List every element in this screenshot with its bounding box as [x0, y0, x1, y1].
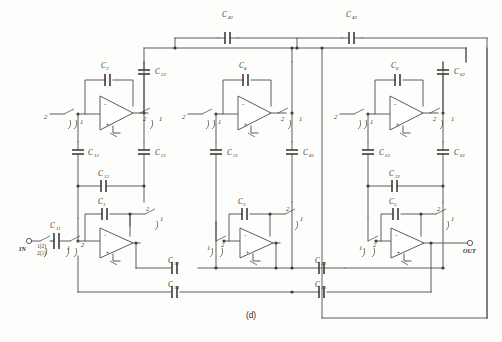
opamp-inverting-sign: − — [394, 101, 397, 107]
label-C62: C 62 — [454, 68, 465, 77]
phase-label-1: 1 — [451, 115, 454, 122]
phase-label-2: 2 — [334, 113, 338, 120]
svg-text:3: 3 — [243, 202, 246, 207]
label-C52: C 52 — [379, 149, 390, 158]
label-C4: C 4 — [239, 62, 247, 71]
opamp-inverting-sign: − — [244, 232, 247, 238]
svg-text:C: C — [303, 149, 308, 157]
capacitor-C1 — [102, 208, 107, 220]
svg-text:C: C — [88, 149, 93, 157]
phase-label-1: 1 — [300, 215, 303, 222]
label-C11: C 11 — [50, 222, 61, 231]
capacitor-C62 — [437, 48, 466, 113]
capacitor-C32-upper-right — [366, 180, 444, 218]
label-C43: C 43 — [346, 11, 357, 20]
phase-label-2: 2 — [146, 205, 150, 212]
phase-label-2: 2 — [143, 115, 147, 122]
opamp-inverting-sign: − — [104, 232, 107, 238]
svg-text:11: 11 — [56, 226, 61, 231]
circuit-schematic: C 42 C 43 C 2 C 4 C 6 C 1 C 3 C 5 — [0, 0, 502, 342]
label-C32-upper-right: C 32 — [389, 170, 400, 179]
svg-text:1: 1 — [103, 202, 105, 207]
label-C22: C 22 — [155, 68, 166, 77]
capacitor-C43 — [342, 32, 362, 44]
svg-text:C: C — [222, 11, 227, 19]
svg-text:34: 34 — [174, 285, 179, 290]
phase-label-1: 1 — [67, 244, 70, 251]
svg-text:13: 13 — [104, 174, 109, 179]
svg-text:C: C — [315, 257, 320, 265]
svg-text:41: 41 — [309, 153, 314, 158]
capacitor-C52 — [362, 142, 374, 186]
svg-text:C: C — [50, 222, 55, 230]
phase-label-2: 2 — [281, 115, 285, 122]
label-C21: C 21 — [155, 149, 166, 158]
label-C32-bottom: C 32 — [168, 257, 179, 266]
label-C34-bottom: C 34 — [168, 281, 179, 290]
opamp-inverting-sign: − — [395, 232, 398, 238]
phase-label-1: 1 — [370, 118, 373, 125]
svg-text:61: 61 — [460, 153, 465, 158]
capacitor-C41 — [286, 142, 298, 202]
capacitor-C61 — [437, 142, 449, 186]
opamp-noninverting-sign: + — [106, 249, 109, 255]
figure-caption: (d) — [246, 310, 256, 320]
stage-2-top — [50, 62, 153, 142]
svg-text:31: 31 — [233, 153, 238, 158]
phase-label-1: 1 — [299, 115, 302, 122]
phase-label-2: 2 — [182, 113, 186, 120]
svg-text:C: C — [389, 170, 394, 178]
svg-text:C: C — [227, 149, 232, 157]
svg-text:2: 2 — [106, 66, 109, 71]
phase-label-2: 2 — [433, 115, 437, 122]
svg-text:33: 33 — [321, 261, 326, 266]
svg-text:42: 42 — [228, 15, 233, 20]
label-C3: C 3 — [238, 198, 246, 207]
phase-label-1: 1 — [159, 115, 162, 122]
label-C61: C 61 — [454, 149, 465, 158]
capacitor-C31 — [210, 142, 222, 222]
svg-text:21: 21 — [161, 153, 166, 158]
svg-text:4: 4 — [244, 66, 247, 71]
opamp-noninverting-sign: + — [246, 249, 249, 255]
phase-label-2: 2 — [44, 113, 48, 120]
label-C13-upper: C 13 — [98, 170, 109, 179]
phase-label-1: 1 — [80, 118, 83, 125]
label-C1: C 1 — [98, 198, 105, 207]
capacitor-C13-upper — [76, 180, 145, 218]
phase-label-1: 1 — [451, 215, 454, 222]
svg-text:5: 5 — [394, 202, 397, 207]
stage-4-top — [188, 46, 294, 142]
label-C12: C 12 — [88, 149, 99, 158]
opamp-noninverting-sign: + — [396, 121, 399, 127]
label-C2: C 2 — [101, 62, 109, 71]
svg-text:22: 22 — [161, 72, 166, 77]
stage-1-bottom — [26, 209, 171, 292]
svg-text:C: C — [315, 281, 320, 289]
phase-label-1: 1 — [160, 215, 163, 222]
figure-canvas: C 42 C 43 C 2 C 4 C 6 C 1 C 3 C 5 — [0, 0, 502, 342]
label-C13-bottom: C 13 — [315, 281, 326, 290]
input-switch-label-bottom: 2(1) — [37, 250, 46, 257]
terminal-label-in: IN — [18, 245, 26, 252]
label-C41: C 41 — [303, 149, 314, 158]
capacitor-C2 — [105, 74, 110, 86]
phase-label-1: 1 — [218, 118, 221, 125]
svg-text:12: 12 — [94, 153, 99, 158]
label-C31: C 31 — [227, 149, 238, 158]
capacitor-C42 — [218, 32, 238, 44]
svg-text:32: 32 — [174, 261, 179, 266]
label-C5: C 5 — [389, 198, 397, 207]
capacitor-C12 — [72, 142, 84, 186]
phase-label-2: 2 — [81, 241, 85, 248]
stage-6-top — [340, 62, 445, 142]
opamp-noninverting-sign: + — [397, 249, 400, 255]
label-C6: C 6 — [391, 62, 399, 71]
svg-text:C: C — [346, 11, 351, 19]
svg-text:52: 52 — [385, 153, 390, 158]
capacitor-C21 — [138, 142, 150, 186]
terminal-label-out: OUT — [463, 247, 476, 254]
label-C33-bottom: C 33 — [315, 257, 326, 266]
stage-3-bottom — [198, 202, 322, 294]
svg-text:C: C — [454, 149, 459, 157]
